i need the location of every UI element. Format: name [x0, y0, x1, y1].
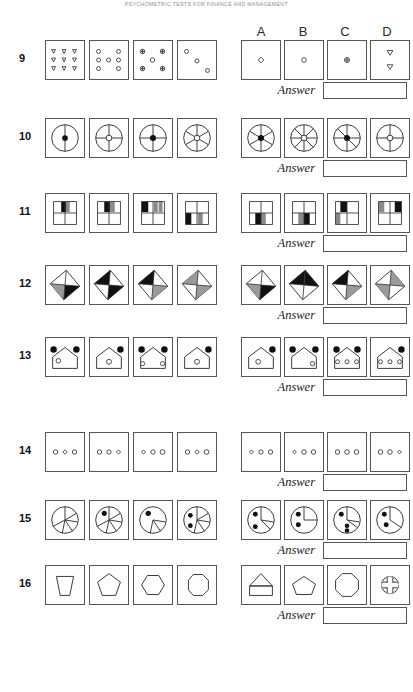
- option-cell-16-d[interactable]: [370, 565, 410, 605]
- answer-label-11: Answer: [241, 236, 323, 251]
- row-number-12: 12: [19, 277, 31, 289]
- option-cell-14-b[interactable]: [284, 432, 324, 472]
- option-cell-11-d[interactable]: [370, 193, 410, 233]
- question-cell-11-2: [89, 193, 129, 233]
- question-cell-14-2: [89, 432, 129, 472]
- option-cell-13-c[interactable]: [327, 337, 367, 377]
- option-cell-11-c[interactable]: [327, 193, 367, 233]
- option-cell-12-a[interactable]: [241, 265, 281, 305]
- option-panels-11: [241, 193, 410, 233]
- option-cell-15-c[interactable]: [327, 500, 367, 540]
- answer-box-16[interactable]: [323, 607, 407, 624]
- question-panels-10: [45, 118, 217, 158]
- column-letter-d: D: [366, 24, 408, 39]
- question-cell-16-2: [89, 565, 129, 605]
- question-cell-13-4: [177, 337, 217, 377]
- option-cell-15-d[interactable]: [370, 500, 410, 540]
- option-cell-10-b[interactable]: [284, 118, 324, 158]
- question-cell-15-2: [89, 500, 129, 540]
- option-cell-9-b[interactable]: [284, 40, 324, 80]
- row-number-10: 10: [19, 130, 31, 142]
- option-cell-10-c[interactable]: [327, 118, 367, 158]
- question-cell-14-1: [45, 432, 85, 472]
- question-cell-14-3: [133, 432, 173, 472]
- option-cell-12-c[interactable]: [327, 265, 367, 305]
- option-panels-9: [241, 40, 410, 80]
- answer-box-15[interactable]: [323, 542, 407, 559]
- question-panels-16: [45, 565, 217, 605]
- option-panels-15: [241, 500, 410, 540]
- question-cell-16-1: [45, 565, 85, 605]
- option-panels-14: [241, 432, 410, 472]
- question-panels-15: [45, 500, 217, 540]
- column-letter-c: C: [324, 24, 366, 39]
- answer-box-14[interactable]: [323, 474, 407, 491]
- option-cell-13-a[interactable]: [241, 337, 281, 377]
- row-number-14: 14: [19, 444, 31, 456]
- answer-label-10: Answer: [241, 161, 323, 176]
- question-cell-9-1: [45, 40, 85, 80]
- option-cell-14-c[interactable]: [327, 432, 367, 472]
- question-cell-11-4: [177, 193, 217, 233]
- page-header: PSYCHOMETRIC TESTS FOR FINANCE AND MANAG…: [0, 0, 413, 8]
- option-cell-13-d[interactable]: [370, 337, 410, 377]
- answer-strip-10: Answer: [241, 160, 409, 177]
- answer-strip-15: Answer: [241, 542, 409, 559]
- option-cell-11-b[interactable]: [284, 193, 324, 233]
- question-cell-9-3: [133, 40, 173, 80]
- answer-label-14: Answer: [241, 475, 323, 490]
- answer-box-12[interactable]: [323, 307, 407, 324]
- column-letter-a: A: [240, 24, 282, 39]
- option-cell-9-c[interactable]: [327, 40, 367, 80]
- option-cell-10-d[interactable]: [370, 118, 410, 158]
- option-cell-15-b[interactable]: [284, 500, 324, 540]
- question-cell-12-4: [177, 265, 217, 305]
- question-cell-12-1: [45, 265, 85, 305]
- answer-strip-9: Answer: [241, 82, 409, 99]
- option-cell-9-d[interactable]: [370, 40, 410, 80]
- option-cell-10-a[interactable]: [241, 118, 281, 158]
- row-number-11: 11: [19, 205, 31, 217]
- answer-label-16: Answer: [241, 608, 323, 623]
- row-number-13: 13: [19, 349, 31, 361]
- question-cell-15-3: [133, 500, 173, 540]
- question-cell-12-3: [133, 265, 173, 305]
- option-cell-15-a[interactable]: [241, 500, 281, 540]
- option-cell-11-a[interactable]: [241, 193, 281, 233]
- question-cell-15-1: [45, 500, 85, 540]
- question-cell-9-2: [89, 40, 129, 80]
- answer-strip-13: Answer: [241, 379, 409, 396]
- option-panels-16: [241, 565, 410, 605]
- option-cell-12-b[interactable]: [284, 265, 324, 305]
- answer-box-10[interactable]: [323, 160, 407, 177]
- option-cell-14-d[interactable]: [370, 432, 410, 472]
- option-cell-12-d[interactable]: [370, 265, 410, 305]
- question-cell-10-1: [45, 118, 85, 158]
- question-cell-12-2: [89, 265, 129, 305]
- answer-box-11[interactable]: [323, 235, 407, 252]
- answer-label-9: Answer: [241, 83, 323, 98]
- question-cell-11-1: [45, 193, 85, 233]
- question-cell-15-4: [177, 500, 217, 540]
- option-cell-16-a[interactable]: [241, 565, 281, 605]
- row-number-15: 15: [19, 512, 31, 524]
- question-panels-12: [45, 265, 217, 305]
- question-panels-9: [45, 40, 217, 80]
- option-cell-16-c[interactable]: [327, 565, 367, 605]
- row-number-9: 9: [19, 52, 25, 64]
- option-cell-14-a[interactable]: [241, 432, 281, 472]
- option-cell-9-a[interactable]: [241, 40, 281, 80]
- answer-box-9[interactable]: [323, 82, 407, 99]
- question-cell-13-2: [89, 337, 129, 377]
- option-panels-12: [241, 265, 410, 305]
- answer-box-13[interactable]: [323, 379, 407, 396]
- question-cell-10-4: [177, 118, 217, 158]
- option-cell-13-b[interactable]: [284, 337, 324, 377]
- question-cell-16-4: [177, 565, 217, 605]
- option-cell-16-b[interactable]: [284, 565, 324, 605]
- question-cell-13-1: [45, 337, 85, 377]
- question-cell-14-4: [177, 432, 217, 472]
- question-cell-9-4: [177, 40, 217, 80]
- row-number-16: 16: [19, 577, 31, 589]
- column-letters: A B C D: [240, 24, 408, 39]
